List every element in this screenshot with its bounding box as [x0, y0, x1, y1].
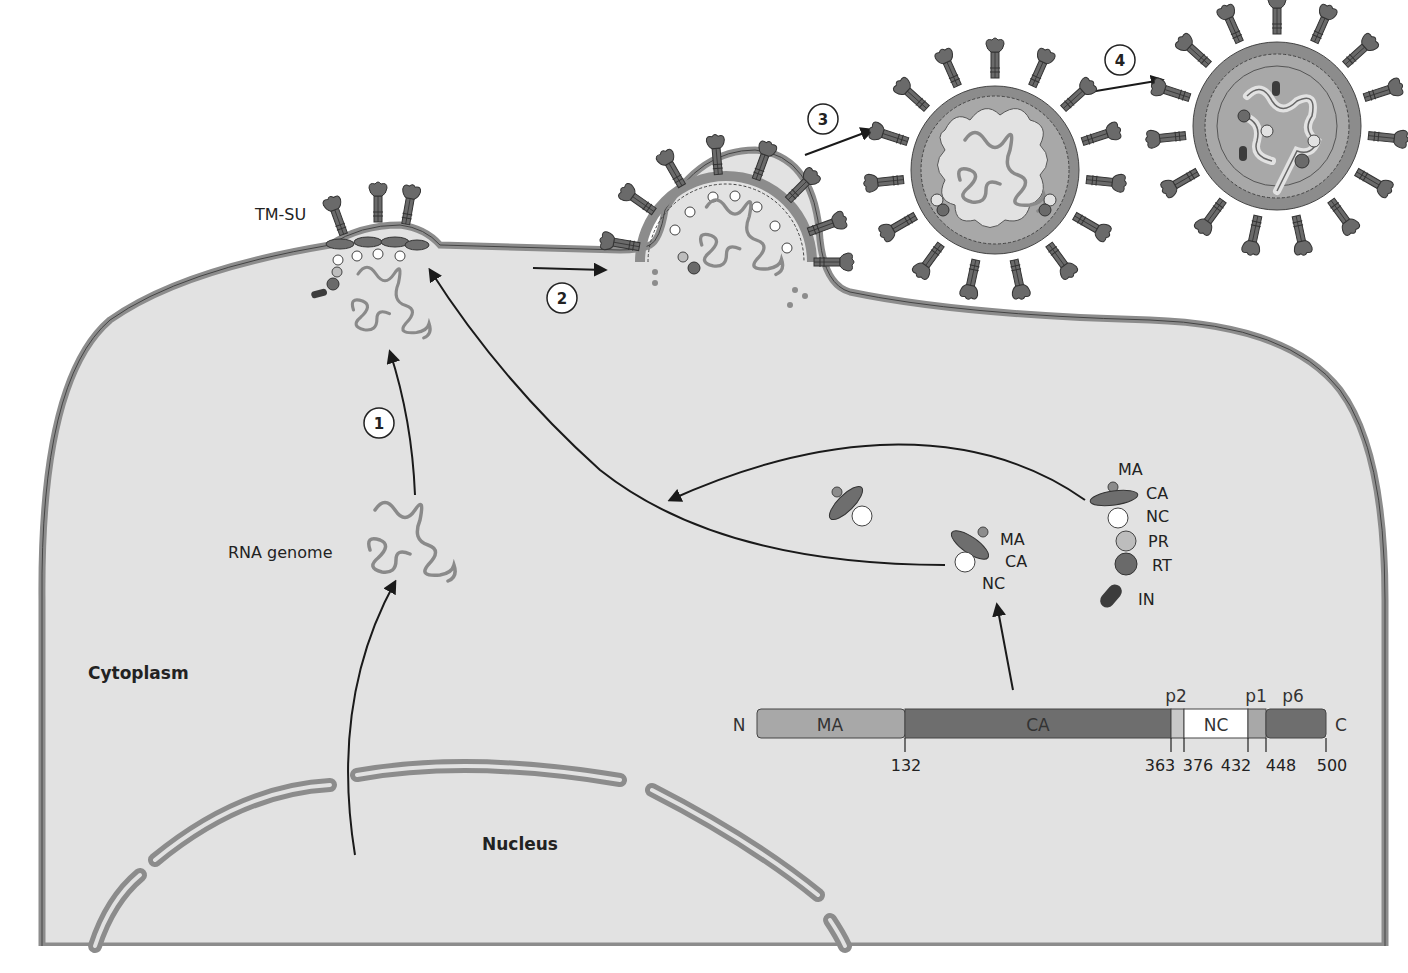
svg-text:MA: MA — [1000, 530, 1025, 549]
cytoplasm-label: Cytoplasm — [88, 663, 189, 683]
svg-text:CA: CA — [1005, 552, 1027, 571]
svg-text:C: C — [1335, 715, 1347, 735]
svg-text:448: 448 — [1266, 756, 1297, 775]
svg-text:p2: p2 — [1165, 686, 1187, 706]
rna-genome-label: RNA genome — [228, 543, 332, 562]
svg-text:363: 363 — [1145, 756, 1176, 775]
svg-text:p6: p6 — [1282, 686, 1304, 706]
svg-text:500: 500 — [1317, 756, 1348, 775]
svg-text:CA: CA — [1146, 484, 1168, 503]
tm-su-label: TM-SU — [254, 205, 306, 224]
retrovirus-assembly-diagram: Cytoplasm Nucleus RNA genome TM-SU 1 2 3… — [0, 0, 1408, 973]
svg-text:NC: NC — [1204, 715, 1229, 735]
svg-text:NC: NC — [982, 574, 1005, 593]
step-3-badge: 3 — [808, 104, 838, 134]
svg-text:p1: p1 — [1245, 686, 1267, 706]
step-1-badge: 1 — [364, 408, 394, 438]
arrow-step-3 — [805, 130, 872, 155]
nucleus-label: Nucleus — [482, 834, 558, 854]
svg-text:132: 132 — [891, 756, 922, 775]
svg-text:IN: IN — [1138, 590, 1155, 609]
svg-text:376: 376 — [1183, 756, 1214, 775]
svg-text:1: 1 — [374, 415, 384, 433]
svg-text:CA: CA — [1026, 715, 1050, 735]
svg-text:N: N — [733, 715, 746, 735]
svg-text:RT: RT — [1152, 556, 1172, 575]
step-2-badge: 2 — [547, 283, 577, 313]
svg-text:NC: NC — [1146, 507, 1169, 526]
svg-text:MA: MA — [1118, 460, 1143, 479]
svg-text:2: 2 — [557, 290, 567, 308]
svg-text:3: 3 — [818, 111, 828, 129]
mature-virion — [1145, 0, 1408, 257]
svg-text:PR: PR — [1148, 532, 1169, 551]
step-4-badge: 4 — [1105, 45, 1135, 75]
immature-virion — [863, 38, 1127, 301]
svg-text:MA: MA — [817, 715, 844, 735]
svg-text:432: 432 — [1221, 756, 1252, 775]
svg-text:4: 4 — [1115, 52, 1125, 70]
